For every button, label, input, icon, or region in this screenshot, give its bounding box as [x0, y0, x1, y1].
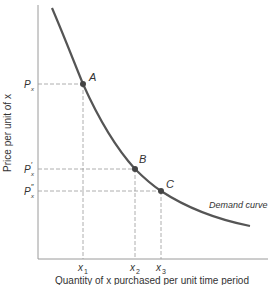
svg-text:x: x [30, 86, 35, 92]
price-label-px-prime: P ′ x [24, 160, 35, 177]
svg-text:x: x [155, 262, 162, 273]
point-b [132, 166, 138, 172]
point-a [80, 81, 86, 87]
svg-text:3: 3 [162, 268, 166, 275]
svg-text:P: P [24, 186, 31, 197]
price-label-px: P x [24, 79, 35, 92]
svg-text:x: x [30, 193, 35, 199]
x-axis-title: Quantity of x purchased per unit time pe… [55, 275, 249, 285]
y-axis-title: Price per unit of x [2, 94, 13, 172]
svg-text:x: x [77, 262, 84, 273]
price-label-px-double-prime: P ″ x [24, 182, 35, 199]
curve-label: Demand curve [209, 200, 268, 210]
svg-text:″: ″ [31, 182, 34, 191]
svg-text:x: x [129, 262, 136, 273]
qty-label-x1: x 1 [77, 262, 88, 275]
demand-curve [52, 8, 250, 226]
qty-label-x2: x 2 [129, 262, 140, 275]
point-c-label: C [166, 178, 174, 190]
svg-text:1: 1 [84, 268, 88, 275]
guide-lines [38, 84, 161, 259]
point-a-label: A [88, 71, 96, 83]
svg-text:P: P [24, 164, 31, 175]
demand-diagram: A B C P x P ′ x P ″ x x 1 x 2 x 3 Demand… [0, 0, 268, 285]
qty-label-x3: x 3 [155, 262, 166, 275]
svg-text:′: ′ [31, 160, 33, 169]
point-b-label: B [139, 153, 146, 165]
svg-text:P: P [24, 79, 31, 90]
point-c [158, 188, 164, 194]
svg-text:x: x [30, 171, 35, 177]
svg-text:2: 2 [136, 268, 140, 275]
